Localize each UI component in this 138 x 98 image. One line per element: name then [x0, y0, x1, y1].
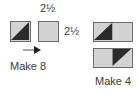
flying-unit-top-triangle-icon — [94, 23, 131, 40]
top-dimension-label: 2½ — [40, 2, 55, 14]
half-square-triangle-unit — [10, 21, 31, 42]
make-8-label: Make 8 — [10, 60, 46, 72]
plain-square-unit — [38, 21, 59, 42]
make-4-label: Make 4 — [95, 75, 131, 87]
hst-triangle-icon — [11, 22, 29, 40]
arrow-right-icon — [23, 46, 41, 54]
flying-unit-top — [93, 22, 133, 42]
side-dimension-label: 2½ — [64, 25, 79, 37]
flying-unit-bottom — [93, 48, 133, 68]
flying-unit-bottom-triangle-icon — [94, 49, 131, 66]
